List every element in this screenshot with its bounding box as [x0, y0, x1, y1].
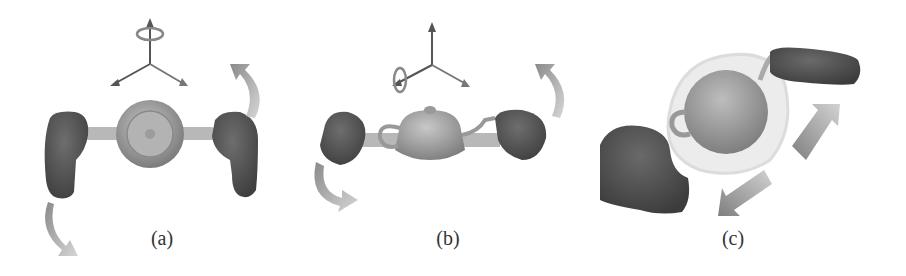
axis-gizmo-icon	[110, 18, 188, 86]
panel-label-c: (c)	[703, 227, 763, 250]
left-hand	[320, 112, 365, 165]
rotate-arrow-icon	[314, 162, 358, 212]
translate-arrow-icon	[792, 104, 840, 160]
teapot-perspective-view	[684, 70, 768, 154]
translate-arrow-icon	[718, 170, 772, 216]
rotate-arrow-icon	[230, 64, 260, 118]
figure-panel-a: (a)	[0, 0, 300, 276]
figure-panel-b: (b)	[300, 0, 600, 276]
right-hand	[212, 112, 258, 197]
rotate-arrow-icon	[45, 202, 78, 256]
axis-gizmo-icon	[392, 22, 470, 92]
left-hand	[45, 112, 89, 199]
panel-label-b: (b)	[418, 227, 478, 250]
figure-panel-c: (c)	[600, 0, 906, 276]
rotate-arrow-icon	[535, 64, 564, 118]
panel-label-a: (a)	[132, 227, 192, 250]
right-hand	[770, 48, 860, 85]
right-hand	[495, 110, 546, 160]
